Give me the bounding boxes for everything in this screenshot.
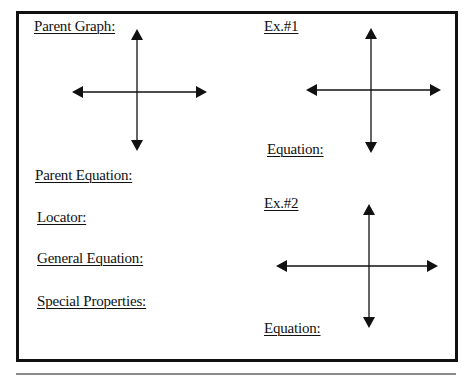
arrow-left-icon (306, 84, 317, 96)
arrow-up-icon (131, 29, 143, 40)
arrow-up-icon (365, 28, 377, 39)
arrow-left-icon (72, 86, 83, 98)
parent-graph-coordinate-axes-icon (72, 29, 207, 151)
arrow-up-icon (363, 204, 375, 215)
axes-layer (0, 0, 464, 376)
example-1-graph-coordinate-axes-icon (306, 28, 441, 153)
arrow-right-icon (196, 86, 207, 98)
example-2-graph-coordinate-axes-icon (276, 204, 438, 328)
arrow-down-icon (365, 142, 377, 153)
arrow-right-icon (430, 84, 441, 96)
arrow-down-icon (363, 317, 375, 328)
arrow-down-icon (131, 140, 143, 151)
arrow-right-icon (427, 260, 438, 272)
arrow-left-icon (276, 260, 287, 272)
